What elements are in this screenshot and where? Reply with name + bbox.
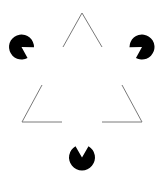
- triangle-corner-top: [63, 13, 102, 47]
- kanizsa-figure: [0, 0, 156, 178]
- kanizsa-svg: [0, 0, 156, 178]
- triangle-corner-bottom-left: [22, 85, 62, 122]
- pacman-disk-right: [129, 34, 154, 59]
- pacman-disk-left: [9, 34, 34, 59]
- outline-triangle-corners: [22, 13, 142, 122]
- triangle-corner-bottom-right: [102, 85, 142, 122]
- pacman-disk-bottom: [69, 146, 95, 170]
- pacman-disks: [9, 34, 154, 170]
